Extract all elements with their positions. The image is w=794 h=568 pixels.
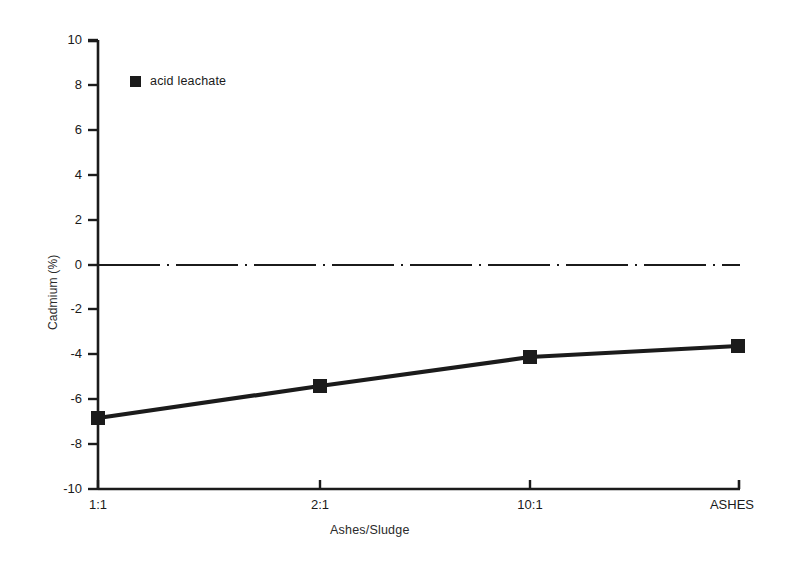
data-point-marker (91, 411, 105, 425)
data-point-marker (731, 339, 745, 353)
plot-area (0, 0, 794, 568)
chart-figure: Cadmium (%) 10 8 6 4 2 0 -2 -4 -6 -8 -10… (0, 0, 794, 568)
data-point-marker (313, 379, 327, 393)
data-point-marker (523, 350, 537, 364)
series-line-acid-leachate (98, 346, 738, 418)
